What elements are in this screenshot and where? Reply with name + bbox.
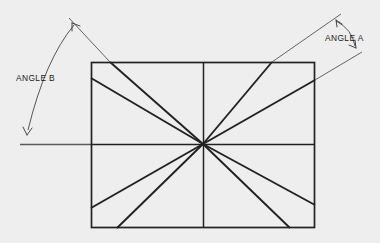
angle-b-upper-arrowhead <box>72 23 80 31</box>
angle-a-upper-arrowhead <box>336 20 342 27</box>
angle-b-lower-arrowhead <box>23 127 32 135</box>
ray-up-left-shallow <box>91 78 203 144</box>
diagram-canvas: ANGLE A ANGLE B <box>0 0 380 243</box>
angle-b-label: ANGLE B <box>16 73 55 83</box>
ray-down-right-steep <box>203 144 290 228</box>
ray-down-right-shallow <box>203 144 315 205</box>
ray-up-left-steep <box>110 62 203 144</box>
ray-up-right-shallow <box>203 80 315 144</box>
angle-a-label: ANGLE A <box>325 33 364 43</box>
angle-diagram-svg: ANGLE A ANGLE B <box>0 0 380 243</box>
ray-up-right-steep <box>203 62 272 144</box>
angle-a-lower-leader <box>315 52 362 80</box>
